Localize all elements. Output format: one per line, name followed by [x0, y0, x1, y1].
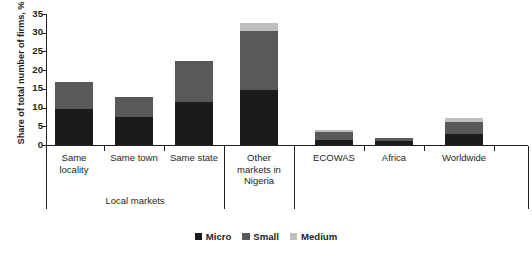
- bar-same-state: [175, 61, 213, 145]
- bar-segment-micro: [375, 141, 413, 145]
- chart-legend: MicroSmallMedium: [0, 231, 532, 242]
- bar-segment-micro: [115, 117, 153, 145]
- y-axis-tick-label: 30: [32, 26, 43, 38]
- legend-item-micro: Micro: [195, 231, 232, 242]
- legend-swatch-micro: [195, 233, 203, 241]
- y-axis-tick-label: 35: [32, 8, 43, 20]
- legend-item-medium: Medium: [290, 231, 337, 242]
- legend-swatch-small: [242, 233, 250, 241]
- bar-segment-small: [240, 31, 278, 90]
- group-separator: [224, 150, 225, 209]
- group-separator: [528, 150, 529, 209]
- y-axis-tick-label: 5: [38, 120, 43, 132]
- bar-segment-small: [445, 122, 483, 134]
- bar-segment-small: [315, 132, 353, 140]
- y-axis-title: Share of total number of firms, %: [16, 0, 26, 148]
- bar-segment-medium: [240, 23, 278, 31]
- legend-label-medium: Medium: [301, 231, 337, 242]
- bar-ecowas: [315, 130, 353, 145]
- bar-segment-small: [55, 82, 93, 109]
- legend-swatch-medium: [290, 233, 298, 241]
- y-axis-tick-label: 20: [32, 64, 43, 76]
- group-label-local-markets: Local markets: [46, 195, 224, 206]
- bar-segment-small: [175, 61, 213, 102]
- bar-africa: [375, 138, 413, 145]
- bar-segment-micro: [315, 140, 353, 145]
- legend-label-small: Small: [253, 231, 279, 242]
- bar-same-locality: [55, 82, 93, 145]
- stacked-bar-chart: Share of total number of firms, % 051015…: [0, 0, 532, 253]
- y-axis-tick-label: 15: [32, 82, 43, 94]
- bar-worldwide: [445, 118, 483, 145]
- legend-item-small: Small: [242, 231, 279, 242]
- plot-area: 05101520253035: [46, 10, 528, 149]
- y-axis-tick-label: 0: [38, 139, 43, 151]
- bar-segment-small: [115, 97, 153, 117]
- bar-segment-micro: [55, 109, 93, 145]
- bar-segment-micro: [240, 90, 278, 145]
- y-axis-tick-label: 10: [32, 101, 43, 113]
- legend-label-micro: Micro: [206, 231, 232, 242]
- y-axis-tick-label: 25: [32, 45, 43, 57]
- bar-segment-micro: [175, 102, 213, 145]
- bar-other-markets-in-nigeria: [240, 23, 278, 145]
- x-axis-line: [46, 145, 528, 146]
- bar-same-town: [115, 97, 153, 145]
- bar-segment-micro: [445, 134, 483, 145]
- group-separator: [294, 150, 295, 209]
- category-group-brackets: Local markets: [46, 150, 528, 212]
